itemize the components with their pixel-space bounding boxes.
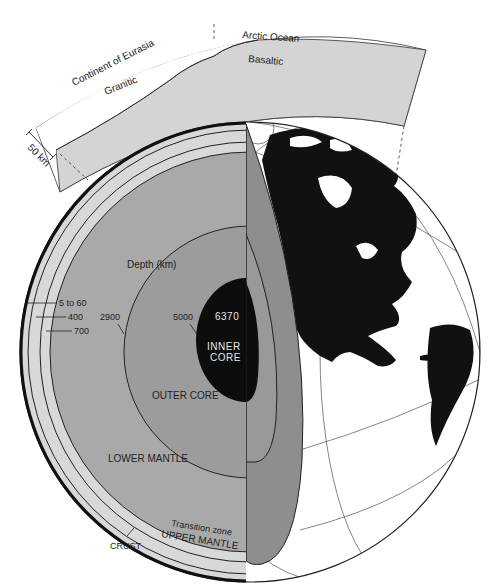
depth-inner-core: 5000	[173, 312, 193, 322]
inner-core-label-2: CORE	[210, 352, 241, 363]
depth-upper-mantle: 400	[68, 312, 83, 322]
depth-center: 6370	[215, 311, 239, 322]
outer-core-label: OUTER CORE	[152, 390, 219, 401]
depth-crust: 5 to 60	[59, 298, 87, 308]
crust-label: CRUST	[110, 541, 142, 551]
inner-core-label-1: INNER	[207, 341, 241, 352]
depth-heading: Depth (km)	[127, 259, 176, 270]
depth-outer-core: 2900	[100, 312, 120, 322]
lower-mantle-label: LOWER MANTLE	[108, 453, 188, 464]
depth-transition: 700	[74, 326, 89, 336]
earth-structure-diagram: 50 km Continent of Eurasia Arctic Ocean …	[0, 0, 490, 584]
